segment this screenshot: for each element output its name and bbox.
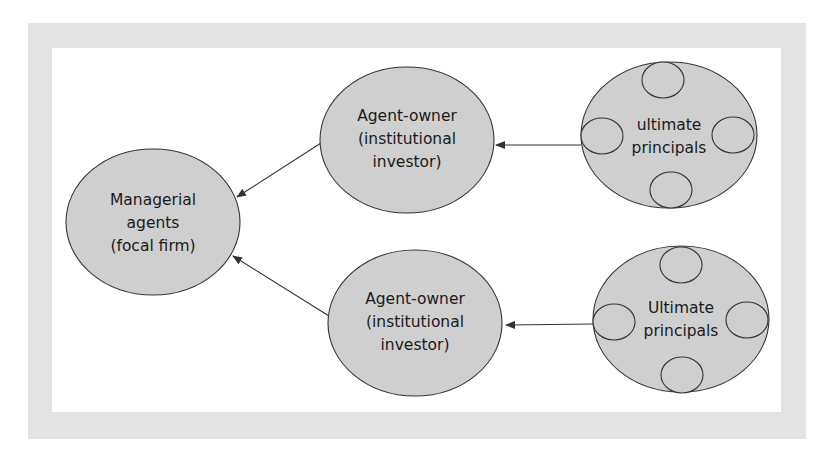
node-agent-owner-top: Agent-owner (institutional investor) [320,67,494,213]
node-label-line: investor) [381,336,450,354]
node-label-line: Agent-owner [357,107,457,125]
node-agent-owner-bottom: Agent-owner (institutional investor) [328,250,502,396]
node-label-line: principals [644,322,719,340]
node-label-line: (institutional [366,313,464,331]
node-label-line: (focal firm) [110,237,195,255]
diagram-canvas: Managerial agents (focal firm) Agent-own… [0,0,828,458]
node-label-line: Agent-owner [365,290,465,308]
node-ultimate-principals-bottom: Ultimate principals [593,246,769,393]
node-ultimate-principals-top: ultimate principals [581,62,757,208]
node-label-line: agents [127,214,180,232]
principal-circle-icon [581,118,623,154]
principal-circle-icon [661,357,703,393]
node-label-line: (institutional [358,130,456,148]
principal-circle-icon [726,302,768,338]
node-label-line: investor) [373,153,442,171]
principal-circle-icon [650,172,692,208]
principal-circle-icon [642,62,684,98]
node-label-line: Ultimate [648,299,714,317]
node-label-line: Managerial [110,191,196,209]
node-managerial-agents: Managerial agents (focal firm) [66,149,240,295]
node-label-line: principals [632,139,707,157]
principal-circle-icon [712,117,754,153]
principal-circle-icon [593,304,635,340]
principal-circle-icon [660,247,702,283]
node-label-line: ultimate [637,116,702,134]
